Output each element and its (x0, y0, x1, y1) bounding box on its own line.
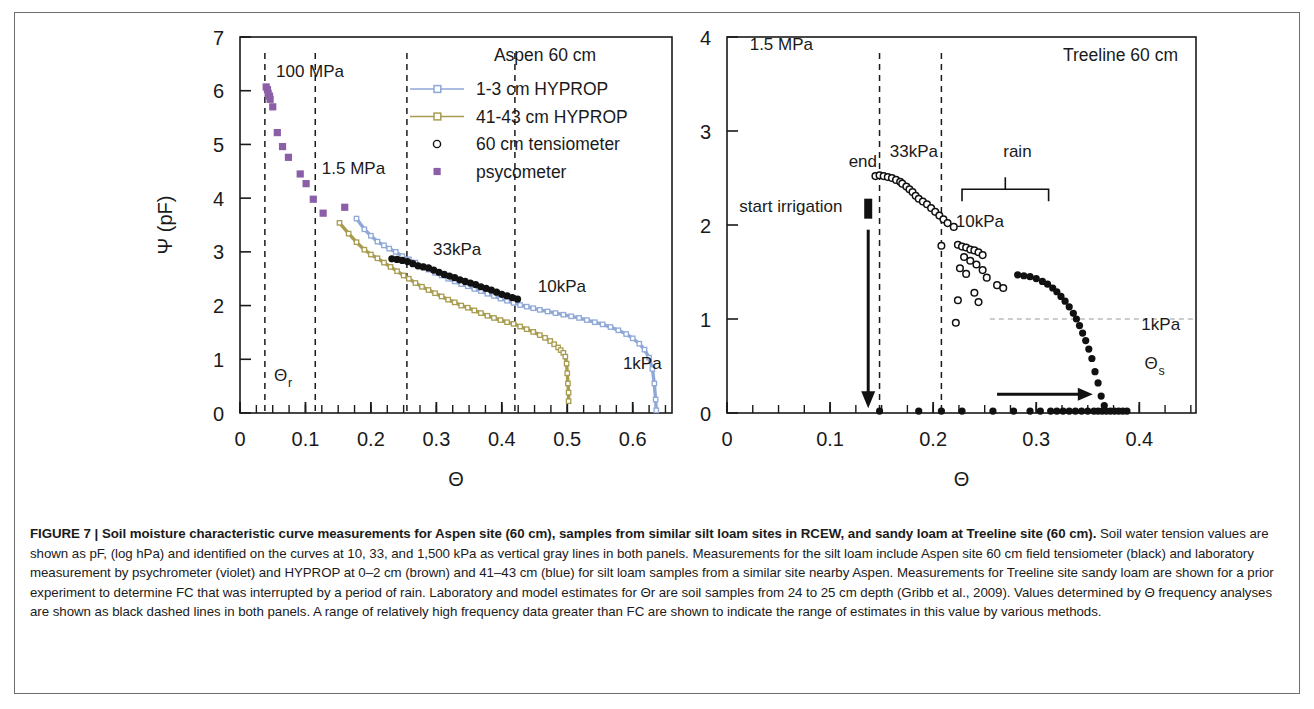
data-marker (967, 257, 974, 264)
data-marker (652, 381, 656, 385)
data-marker (1084, 408, 1091, 415)
data-marker (654, 408, 658, 412)
data-marker (538, 308, 542, 312)
data-marker (375, 256, 379, 260)
data-marker (401, 273, 405, 277)
data-marker (511, 322, 515, 326)
x-tick-label: 0.3 (1022, 428, 1050, 450)
data-marker (585, 318, 589, 322)
data-marker (446, 297, 450, 301)
data-marker (983, 274, 990, 281)
annotation-theta: Θ (274, 366, 287, 385)
legend-marker-circle (433, 140, 440, 147)
data-marker (979, 252, 986, 259)
data-marker (1059, 408, 1066, 415)
legend-marker-square (434, 113, 441, 120)
data-marker (979, 267, 986, 274)
data-marker (1076, 322, 1083, 329)
data-marker (564, 361, 568, 365)
data-marker (938, 408, 945, 415)
panel-left: 0123456700.10.20.30.40.50.6ΘΨ (pF)100 MP… (154, 27, 672, 491)
legend-label: 41-43 cm HYPROP (476, 107, 628, 127)
x-tick-label: 0.2 (357, 428, 385, 450)
data-marker (369, 234, 373, 238)
data-marker (577, 316, 581, 320)
annotation-33kpa: 33kPa (890, 142, 939, 161)
x-tick-label: 0.2 (919, 428, 947, 450)
annotation-10kpa: 10kPa (956, 212, 1005, 231)
data-marker (944, 220, 951, 227)
x-tick-label: 0.1 (816, 428, 844, 450)
data-marker (388, 265, 392, 269)
legend-marker-square (434, 86, 441, 93)
data-marker (362, 227, 366, 231)
data-marker (479, 311, 483, 315)
data-marker (524, 304, 528, 308)
figure-separator: | (91, 526, 102, 541)
rain-bracket (962, 189, 1049, 201)
panel-title-right: Treeline 60 cm (1063, 45, 1178, 65)
y-tick-label: 7 (213, 27, 224, 49)
data-marker (616, 328, 620, 332)
y-tick-label: 4 (213, 188, 224, 210)
x-tick-label: 0.3 (422, 428, 450, 450)
data-marker (1000, 285, 1007, 292)
series-1-3-cm-hyprop (354, 216, 658, 412)
data-marker (354, 240, 358, 244)
annotation-theta: Θ (1144, 354, 1157, 373)
annotation-theta-subscript: r (288, 376, 292, 390)
data-marker (1091, 368, 1098, 375)
data-marker (1066, 408, 1073, 415)
data-marker (320, 210, 327, 217)
data-marker (563, 354, 567, 358)
chart-legend: 1-3 cm HYPROP41-43 cm HYPROP60 cm tensio… (410, 79, 628, 182)
data-marker (961, 254, 968, 261)
data-marker (593, 320, 597, 324)
data-marker (426, 288, 430, 292)
data-marker (531, 330, 535, 334)
x-axis-title: Θ (448, 468, 464, 490)
data-marker (624, 332, 628, 336)
x-tick-label: 0.6 (619, 428, 647, 450)
x-tick-label: 0.5 (553, 428, 581, 450)
data-marker (600, 322, 604, 326)
data-marker (394, 250, 398, 254)
data-marker (382, 243, 386, 247)
data-marker (285, 154, 292, 161)
data-marker (1033, 275, 1040, 282)
data-marker (565, 371, 569, 375)
data-marker (608, 325, 612, 329)
data-marker (1088, 355, 1095, 362)
x-tick-label: 0 (721, 428, 732, 450)
data-marker (297, 170, 304, 177)
data-marker (1026, 273, 1033, 280)
data-marker (420, 285, 424, 289)
range-arrow-head (1078, 388, 1093, 401)
data-marker (413, 281, 417, 285)
figure-number: FIGURE 7 (30, 526, 91, 541)
data-marker (561, 313, 565, 317)
data-marker (1123, 408, 1130, 415)
data-marker (1026, 408, 1033, 415)
data-marker (407, 277, 411, 281)
data-marker (1066, 303, 1073, 310)
data-marker (346, 231, 350, 235)
y-axis-title: Ψ (pF) (154, 196, 176, 255)
data-marker (485, 314, 489, 318)
data-marker (492, 316, 496, 320)
data-marker (303, 180, 310, 187)
annotation-start-irrigation: start irrigation (739, 197, 842, 216)
legend-label: 1-3 cm HYPROP (476, 79, 608, 99)
data-marker (971, 289, 978, 296)
data-marker (637, 342, 641, 346)
figure-caption: FIGURE 7 | Soil moisture characteristic … (30, 524, 1288, 622)
data-marker (274, 129, 281, 136)
plots-area: 0123456700.10.20.30.40.50.6ΘΨ (pF)100 MP… (0, 0, 1314, 500)
y-tick-label: 2 (700, 215, 711, 237)
annotation-1-5-mpa: 1.5 MPa (750, 35, 814, 54)
data-marker (498, 318, 502, 322)
data-marker (1072, 408, 1079, 415)
figure-root: 0123456700.10.20.30.40.50.6ΘΨ (pF)100 MP… (0, 0, 1314, 709)
data-marker (362, 248, 366, 252)
y-tick-label: 0 (700, 403, 711, 425)
